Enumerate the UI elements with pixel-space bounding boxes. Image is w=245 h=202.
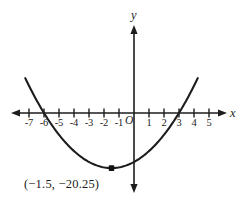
vertex-coordinate-label: (−1.5, −20.25) xyxy=(24,178,99,191)
vertex-point-marker xyxy=(109,165,115,171)
x-tick-label-5: 5 xyxy=(200,118,218,129)
graph-figure: -7 -6 -5 -4 -3 -2 -1 1 2 3 4 5 O x y (−1… xyxy=(0,0,245,202)
parabola-plot xyxy=(0,0,245,202)
y-axis-down-arrow-icon xyxy=(130,184,137,193)
x-axis-left-arrow-icon xyxy=(11,109,20,116)
x-axis-right-arrow-icon xyxy=(218,109,227,116)
x-axis-label: x xyxy=(230,107,236,120)
y-axis-up-arrow-icon xyxy=(130,25,137,34)
origin-label: O xyxy=(125,115,133,127)
y-axis-label: y xyxy=(131,9,137,22)
